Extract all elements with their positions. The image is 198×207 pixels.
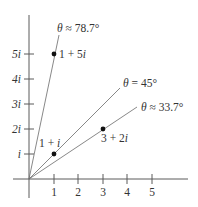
x-tick-label: 3 (100, 186, 106, 198)
y-tick-label: 4i (12, 73, 21, 85)
x-tick-label: 1 (51, 186, 57, 198)
y-tick-label: i (18, 148, 21, 160)
ray-78-7-degrees (29, 35, 59, 179)
point-label-1-plus-5i: 1 + 5i (59, 48, 86, 60)
point-1-plus-5i (52, 52, 57, 57)
y-tick-label: 2i (12, 123, 21, 135)
point-label-1-plus-i: 1 + i (39, 137, 60, 149)
point-1-plus-i (52, 152, 57, 157)
angle-label-45: θ = 45° (123, 77, 157, 89)
x-tick-label: 2 (75, 186, 81, 198)
x-tick-label: 4 (124, 186, 130, 198)
x-tick-label: 5 (149, 186, 155, 198)
point-3-plus-2i (101, 127, 106, 132)
angle-label-33-7: θ ≈ 33.7° (141, 101, 184, 113)
y-tick-label: 5i (12, 48, 21, 60)
angle-label-78-7: θ ≈ 78.7° (57, 22, 100, 34)
complex-plane-diagram: 1 2 3 4 5 i 2i 3i 4i 5i 1 + 5i 1 + i 3 +… (0, 0, 198, 207)
y-tick-label: 3i (11, 98, 21, 110)
point-label-3-plus-2i: 3 + 2i (101, 132, 128, 144)
